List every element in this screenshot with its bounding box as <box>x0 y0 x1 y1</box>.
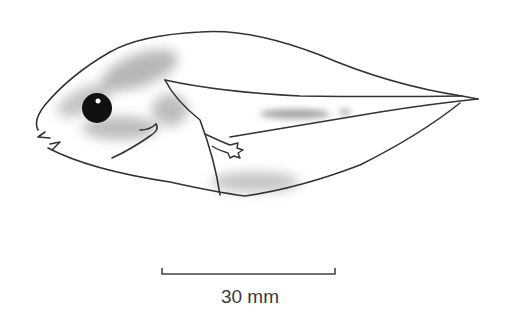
tadpole-illustration <box>0 0 509 322</box>
scale-bar <box>162 268 335 274</box>
scale-bar-label: 30 mm <box>150 286 350 308</box>
eye <box>82 93 112 123</box>
